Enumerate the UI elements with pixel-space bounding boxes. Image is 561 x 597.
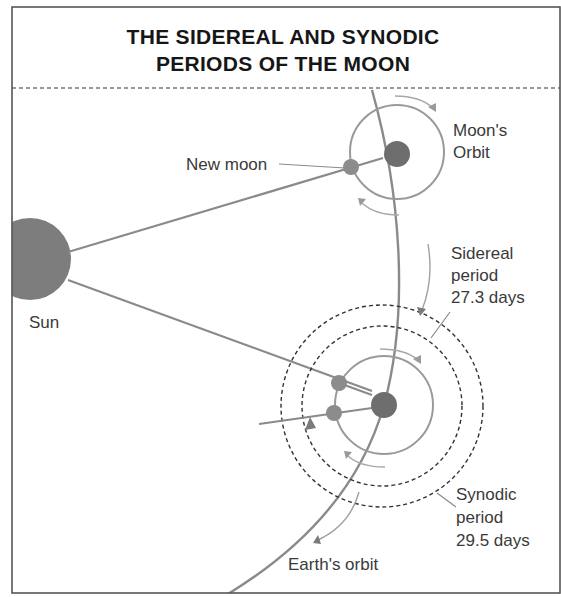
moon-synodic-position-icon [326,405,342,421]
moon-sidereal-position-icon [331,375,347,391]
new-moon-icon [343,159,359,175]
moon-periods-diagram: THE SIDEREAL AND SYNODIC PERIODS OF THE … [0,0,561,597]
moons-orbit-label-line-1: Moon's [453,121,507,140]
earths-orbit-label: Earth's orbit [288,555,378,574]
synodic-label-line-1: Synodic [456,485,517,504]
earth-icon-top [384,141,410,167]
sidereal-label-line-1: Sidereal [451,244,513,263]
synodic-label-line-3: 29.5 days [456,531,530,550]
moons-orbit-label-line-2: Orbit [453,143,490,162]
sun-label: Sun [29,313,59,332]
title-line-1: THE SIDEREAL AND SYNODIC [127,25,440,48]
earth-icon-bottom [371,392,397,418]
sidereal-label-line-2: period [451,266,498,285]
synodic-label-line-2: period [456,508,503,527]
new-moon-label: New moon [186,155,267,174]
title-line-2: PERIODS OF THE MOON [156,52,410,75]
sidereal-label-line-3: 27.3 days [451,288,525,307]
